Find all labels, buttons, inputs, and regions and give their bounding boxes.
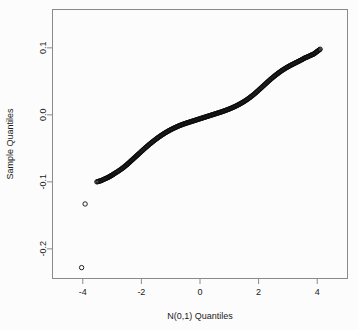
x-axis-title: N(0,1) Quantiles: [167, 311, 233, 321]
qq-plot-figure: -4-2024 0.10.0-0.1-0.2 N(0,1) Quantiles …: [0, 0, 358, 330]
x-tick-label: -2: [137, 287, 145, 297]
y-tick-label: -0.2: [38, 241, 48, 257]
figure-background: [0, 0, 358, 330]
x-tick-label: 4: [315, 287, 320, 297]
y-tick-label: 0.0: [38, 109, 48, 122]
x-tick-label: 2: [256, 287, 261, 297]
qq-plot-screenshot: -4-2024 0.10.0-0.1-0.2 N(0,1) Quantiles …: [0, 0, 358, 330]
y-tick-label: -0.1: [38, 174, 48, 190]
x-tick-label: -4: [79, 287, 87, 297]
y-tick-label: 0.1: [38, 42, 48, 55]
x-tick-label: 0: [197, 287, 202, 297]
y-axis-title: Sample Quantiles: [5, 108, 15, 180]
